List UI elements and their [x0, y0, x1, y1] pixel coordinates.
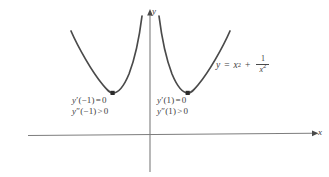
curve-left-branch — [71, 16, 142, 93]
annot-value: 0 — [184, 106, 189, 116]
curve-equation-label: y = x2 + 1 x2 — [216, 55, 269, 74]
fraction-denominator: x2 — [260, 65, 267, 74]
equation-fraction: 1 x2 — [256, 55, 269, 74]
annot-argument: (1) — [165, 106, 176, 116]
annot-value: 0 — [102, 95, 107, 105]
x-axis-label: x — [318, 127, 322, 137]
x-axis-line — [28, 133, 312, 135]
annot-value: 0 — [182, 95, 187, 105]
annot-argument: (−1) — [80, 106, 96, 116]
annot-value: 0 — [104, 106, 109, 116]
annot-relation: > — [97, 106, 104, 116]
annotation-right-second-derivative: y″(1)>0 — [157, 106, 188, 116]
annotation-left-second-derivative: y″(−1)>0 — [72, 106, 109, 116]
equation-plus: + — [241, 60, 254, 70]
equation-equals: = — [220, 60, 233, 70]
annot-relation: > — [176, 106, 183, 116]
left-minimum-point-marker — [111, 91, 115, 95]
annotation-right-first-derivative: y′(1)=0 — [157, 95, 186, 105]
function-graph-figure: y x y′(−1)=0 y″(−1)>0 y′(1)=0 y″(1)>0 y … — [0, 0, 329, 177]
y-axis-label: y — [152, 6, 156, 16]
annot-relation: = — [95, 95, 102, 105]
annot-relation: = — [174, 95, 181, 105]
annot-argument: (1) — [163, 95, 174, 105]
fraction-denominator-exponent: 2 — [263, 62, 266, 69]
annotation-left-first-derivative: y′(−1)=0 — [72, 95, 107, 105]
plot-canvas — [0, 0, 329, 177]
annot-argument: (−1) — [78, 95, 94, 105]
